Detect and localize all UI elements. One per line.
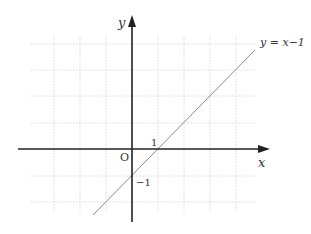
y-axis-label: y bbox=[117, 15, 126, 30]
line-equation-label: y = x−1 bbox=[259, 36, 305, 49]
x-axis-label: x bbox=[258, 155, 266, 170]
origin-label: O bbox=[120, 151, 129, 164]
tick-label-minus-one: −1 bbox=[136, 177, 151, 188]
y-axis-arrow-icon bbox=[128, 15, 136, 27]
x-axis-arrow-icon bbox=[258, 145, 270, 153]
function-line bbox=[93, 50, 255, 215]
coordinate-plane: y x O 1 −1 y = x−1 bbox=[0, 0, 311, 234]
x-axis bbox=[18, 145, 270, 153]
tick-label-one: 1 bbox=[151, 137, 157, 148]
y-axis bbox=[128, 15, 136, 222]
